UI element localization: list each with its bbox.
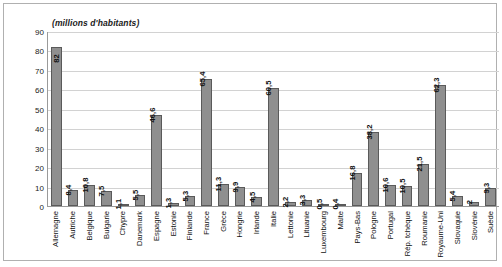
x-axis-label: Slovaquie (452, 211, 461, 244)
bar[interactable]: 4,5 (251, 197, 262, 206)
x-label-slot: Lituanie (298, 209, 315, 261)
bar[interactable]: 5,4 (452, 196, 463, 207)
bar[interactable]: 10,5 (402, 186, 413, 206)
bar-slot: 5,4 (449, 32, 466, 206)
x-axis-label: Irlande (252, 211, 261, 234)
x-label-slot: Estonie (164, 209, 181, 261)
bar[interactable]: 11,3 (218, 184, 229, 206)
y-axis-tick-labels: 9080706050403020100 (20, 32, 44, 207)
x-axis-label: Luxembourg (319, 211, 328, 253)
bar[interactable]: 16,8 (352, 173, 363, 206)
x-axis-label: Lettonie (285, 211, 294, 238)
x-axis-label: France (201, 211, 210, 235)
chart-title: (millions d'habitants) (52, 18, 139, 28)
y-axis-tick: 0 (22, 203, 44, 212)
bar-slot: 60,5 (265, 32, 282, 206)
bar[interactable]: 38,2 (368, 132, 379, 206)
bar[interactable]: 7,5 (101, 191, 112, 206)
bar-value-label: 5,3 (181, 190, 190, 201)
bar-slot: 1,3 (165, 32, 182, 206)
bar-slot: 10,6 (382, 32, 399, 206)
x-axis-label: Grèce (218, 211, 227, 232)
bar[interactable]: 9,3 (485, 188, 496, 206)
bar-slot: 10,5 (399, 32, 416, 206)
x-axis-label: Autriche (68, 211, 77, 239)
y-axis-tick: 10 (22, 183, 44, 192)
bar[interactable]: 62,3 (435, 85, 446, 206)
x-axis-label: Pologne (369, 211, 378, 239)
bar-slot: 5,5 (132, 32, 149, 206)
bar-value-label: 10,6 (381, 178, 390, 193)
bar[interactable]: 82 (51, 47, 62, 206)
bar[interactable]: 60,5 (268, 88, 279, 206)
x-label-slot: Portugal (382, 209, 399, 261)
bar-slot: 21,5 (415, 32, 432, 206)
bar-slot: 82 (48, 32, 65, 206)
x-label-slot: Malte (331, 209, 348, 261)
bar-value-label: 10,5 (398, 178, 407, 193)
bar-value-label: 2 (465, 200, 474, 204)
bar-value-label: 1,3 (164, 198, 173, 209)
bar-value-label: 3,3 (298, 194, 307, 205)
bar[interactable]: 5,5 (135, 195, 146, 206)
x-label-slot: Grèce (214, 209, 231, 261)
x-label-slot: Rép. tchèque (398, 209, 415, 261)
bar[interactable]: 65,4 (201, 79, 212, 206)
x-axis-label: Danemark (135, 211, 144, 246)
bar-value-label: 4,5 (248, 192, 257, 203)
bar[interactable]: 46,6 (151, 115, 162, 206)
y-axis-tick: 50 (22, 105, 44, 114)
x-label-slot: Italie (265, 209, 282, 261)
bar[interactable]: 8,4 (68, 190, 79, 206)
y-axis-tick: 30 (22, 144, 44, 153)
x-axis-label: Italie (268, 211, 277, 227)
bar-slot: 10,8 (81, 32, 98, 206)
bar[interactable]: 3,3 (302, 200, 313, 206)
bar[interactable]: 10,6 (385, 185, 396, 206)
x-axis-label: Allemagne (51, 211, 60, 247)
bar-value-label: 38,2 (365, 124, 374, 139)
x-axis-category-labels: AllemagneAutricheBelgiqueBulgarieChypreD… (47, 209, 499, 261)
x-axis-label: Slovénie (469, 211, 478, 240)
x-axis-label: Espagne (151, 211, 160, 241)
y-axis-tick: 60 (22, 86, 44, 95)
bar-slot: 7,5 (98, 32, 115, 206)
x-label-slot: Finlande (181, 209, 198, 261)
bar[interactable]: 10,8 (84, 185, 95, 206)
bar-value-label: 0,5 (315, 199, 324, 210)
bar-slot: 5,3 (182, 32, 199, 206)
bar[interactable]: 1,3 (168, 203, 179, 206)
bar-slot: 1,1 (115, 32, 132, 206)
x-label-slot: Roumanie (415, 209, 432, 261)
bar-value-label: 8,4 (64, 184, 73, 195)
plot-inner: 828,410,87,51,15,546,61,35,365,411,39,94… (47, 32, 499, 207)
bar-slot: 62,3 (432, 32, 449, 206)
x-label-slot: Bulgarie (97, 209, 114, 261)
x-label-slot: Suède (482, 209, 499, 261)
y-axis-tick: 80 (22, 47, 44, 56)
bar-value-label: 16,8 (348, 166, 357, 181)
x-label-slot: Slovénie (465, 209, 482, 261)
bar-slot: 9,3 (482, 32, 499, 206)
x-axis-label: Hongrie (235, 211, 244, 238)
x-label-slot: Allemagne (47, 209, 64, 261)
bar[interactable]: 2 (469, 202, 480, 206)
bar[interactable]: 21,5 (418, 164, 429, 206)
bar-value-label: 60,5 (264, 81, 273, 96)
x-axis-label: Roumanie (419, 211, 428, 246)
bar[interactable]: 5,3 (185, 196, 196, 206)
bar-value-label: 9,3 (482, 182, 491, 193)
bar-value-label: 2,2 (281, 196, 290, 207)
x-label-slot: Royaume-Uni (432, 209, 449, 261)
bar[interactable]: 0,5 (318, 204, 329, 206)
x-axis-label: Lituanie (302, 211, 311, 238)
bar[interactable]: 2,2 (285, 202, 296, 206)
bar[interactable]: 0,4 (335, 204, 346, 206)
bar-slot: 11,3 (215, 32, 232, 206)
bar-value-label: 9,9 (231, 181, 240, 192)
x-axis-label: Bulgarie (101, 211, 110, 239)
plot-area: 828,410,87,51,15,546,61,35,365,411,39,94… (47, 32, 499, 207)
x-label-slot: Belgique (80, 209, 97, 261)
bar[interactable]: 9,9 (235, 187, 246, 206)
bar[interactable]: 1,1 (118, 204, 129, 206)
